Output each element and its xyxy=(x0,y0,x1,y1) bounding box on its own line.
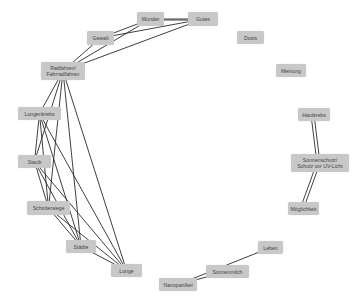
node-schotterwege[interactable]: Schotterwege xyxy=(27,201,70,215)
node-meinung[interactable]: Meinung xyxy=(276,64,306,77)
node-moeglichkeit[interactable]: Möglichkeit xyxy=(288,202,319,215)
node-lunge[interactable]: Lunge xyxy=(111,264,142,277)
edge-layer xyxy=(0,0,362,301)
node-sonnenschutz[interactable]: Sonnenschutz/ Schutz vor UV-Licht xyxy=(291,154,349,172)
node-nanopartikel[interactable]: Nanopartikel xyxy=(159,278,197,291)
node-sonnenmilch[interactable]: Sonnenmilch xyxy=(206,265,249,278)
edge-radfahren-schotterwege xyxy=(49,71,64,208)
node-hautkrebs[interactable]: Hautkrebs xyxy=(298,108,330,121)
node-wunder[interactable]: Wunder xyxy=(137,12,164,26)
node-leben[interactable]: Leben xyxy=(258,241,283,254)
node-gewalt[interactable]: Gewalt xyxy=(87,31,114,45)
node-gutes[interactable]: Gutes xyxy=(188,12,218,26)
network-graph: WunderGutesGewaltDosisRadfahren/ Fahrrad… xyxy=(0,0,362,301)
edge-staub-lunge xyxy=(35,162,127,271)
edge-radfahren-staedte xyxy=(63,71,81,247)
node-dosis[interactable]: Dosis xyxy=(237,31,264,44)
node-staub[interactable]: Staub xyxy=(18,155,51,168)
node-staedte[interactable]: Städte xyxy=(66,240,96,253)
node-lungenkrebs[interactable]: Lungenkrebs xyxy=(18,107,61,120)
node-radfahren[interactable]: Radfahren/ Fahrradfahren xyxy=(41,62,85,80)
